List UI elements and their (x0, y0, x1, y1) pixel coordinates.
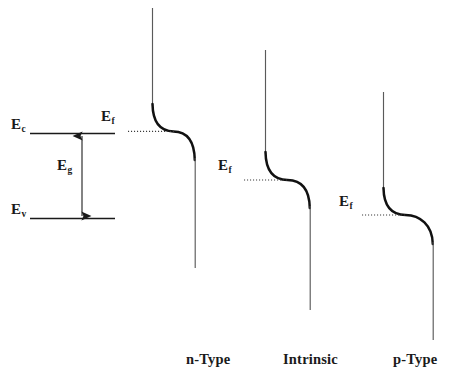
diagram-intrinsic (244, 50, 310, 310)
n-type-fermi-label: Ef (101, 109, 114, 124)
p-type-caption: p-Type (393, 352, 437, 367)
p-type-fermi-label: Ef (339, 194, 352, 209)
band-diagram-figure: Ec Eg Ev Ef Ef Ef n-Type Intrinsic p-Typ… (0, 0, 466, 386)
intrinsic-fermi-curve (266, 152, 310, 208)
intrinsic-fermi-label: Ef (218, 158, 231, 173)
n-type-fermi-curve (153, 104, 195, 160)
diagram-p-type (362, 92, 433, 340)
band-diagram-canvas (0, 0, 466, 386)
n-type-caption: n-Type (186, 352, 230, 367)
intrinsic-caption: Intrinsic (283, 352, 338, 367)
p-type-fermi-curve (384, 188, 433, 244)
band-gap-label: Eg (57, 158, 72, 173)
valence-band-label: Ev (11, 202, 26, 217)
conduction-band-label: Ec (11, 117, 25, 132)
band-gap-panel (30, 134, 115, 219)
diagram-n-type (128, 8, 195, 268)
